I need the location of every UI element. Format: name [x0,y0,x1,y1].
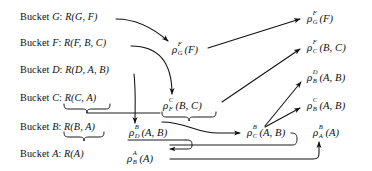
edge-rhoCB-to-rhoBCright [265,108,300,127]
bucket-name: D [52,64,59,75]
edge-bucketF-to-rhoFC [131,46,172,94]
edge-bucketG-to-rhoGF [116,19,168,41]
message-rho-b-c-right: ρCB(A, B) [307,100,345,112]
bucket-colon: : [60,11,63,22]
brace-under-bucket-b-relation [64,132,104,141]
rho-arguments: (A, B) [259,127,285,138]
edge-rhoCB-to-rhoBDright [265,82,301,126]
bucket-prefix: Bucket [20,37,49,48]
bucket-colon: : [60,64,63,75]
message-rho-g-f-mid: ρFG(F) [172,44,198,56]
bucket-colon: : [59,92,62,103]
bucket-prefix: Bucket [20,121,49,132]
message-rho-b-d-right: ρDB(A, B) [307,72,345,84]
edge-braceB-to-rhoBA [170,140,192,149]
rho-glyph: ρ [172,43,177,55]
message-rho-b-a-bottom: ρAB(A) [127,153,153,165]
bucket-relation: R(D, A, B) [65,64,109,75]
message-rho-a-b-right: ρBA(A) [313,127,339,139]
brace-under-bucket-c-relation [64,104,110,113]
rho-arguments: (A, B) [319,100,345,111]
bucket-row-f: Bucket F: R(F, B, C) [20,38,106,48]
bucket-row-d: Bucket D: R(D, A, B) [20,65,109,75]
message-rho-g-f-right: ρFG(F) [307,13,333,25]
bucket-row-b: Bucket B: R(B, A) [20,122,95,132]
message-rho-d-b-mid: ρBD(A, B) [129,127,167,139]
figure-canvas: Bucket G: R(G, F) Bucket F: R(F, B, C) B… [0,0,372,171]
rho-arguments: (F) [184,44,198,55]
bucket-row-g: Bucket G: R(G, F) [20,12,98,22]
bucket-colon: : [58,121,61,132]
bucket-colon: : [58,148,61,159]
rho-arguments: (A, B) [319,72,345,83]
rho-arguments: (A) [139,153,153,164]
rho-glyph: ρ [313,126,318,138]
bucket-relation: R(B, A) [64,121,95,132]
bucket-relation: R(F, B, C) [64,37,106,48]
bucket-colon: : [58,37,61,48]
bucket-relation: R(G, F) [65,11,97,22]
bucket-row-c: Bucket C: R(C, A) [20,93,96,103]
message-rho-c-f-right: ρFC(B, C) [307,42,346,54]
rho-arguments: (B, C) [175,100,202,111]
edges-overlay [0,0,372,171]
edge-rhoGFmid-to-rhoGFright [208,19,300,48]
bucket-row-a: Bucket A: R(A) [20,149,84,159]
rho-glyph: ρ [127,152,132,164]
rho-glyph: ρ [129,126,134,138]
bucket-prefix: Bucket [20,148,49,159]
bucket-name: C [52,92,59,103]
bucket-prefix: Bucket [20,64,49,75]
message-rho-f-c-mid: ρCF(B, C) [163,100,202,112]
bucket-prefix: Bucket [20,11,49,22]
edge-braceC-to-rhoCB [162,122,240,133]
rho-arguments: (F) [319,13,333,24]
rho-arguments: (A, B) [141,127,167,138]
bucket-relation: R(C, A) [65,92,97,103]
edge-rhoFC-to-rhoCFright [222,49,300,102]
edge-bucketD-to-rhoDB [134,74,135,123]
rho-arguments: (A) [325,127,339,138]
bucket-relation: R(A) [64,148,84,159]
rho-glyph: ρ [307,71,312,83]
rho-glyph: ρ [307,41,312,53]
rho-glyph: ρ [307,12,312,24]
rho-glyph: ρ [247,126,252,138]
rho-glyph: ρ [163,99,168,111]
rho-glyph: ρ [307,99,312,111]
brace-under-rho-fc [162,112,216,121]
bucket-name: G [52,11,59,22]
edge-rhoBA-to-rhoABright [170,142,319,159]
bucket-prefix: Bucket [20,92,49,103]
rho-arguments: (B, C) [319,42,346,53]
message-rho-c-b-mid: ρBC(A, B) [247,127,285,139]
